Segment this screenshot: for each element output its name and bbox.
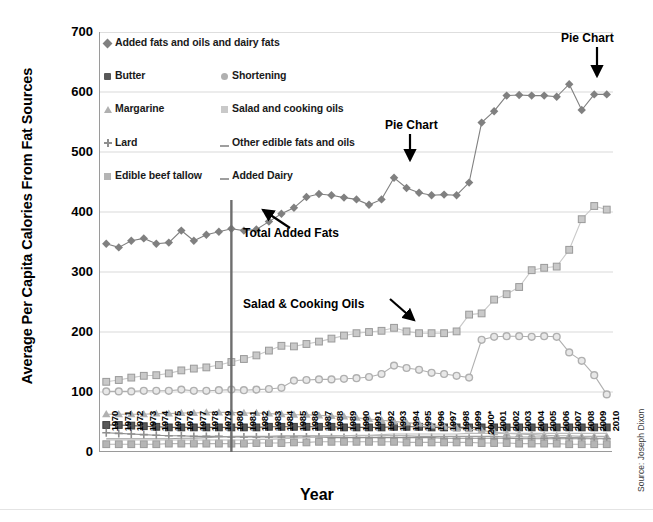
x-tick-1981: 1981 <box>247 411 258 455</box>
x-tick-1980: 1980 <box>234 411 245 455</box>
x-tick-1996: 1996 <box>435 411 446 455</box>
x-tick-1994: 1994 <box>410 411 421 455</box>
x-tick-1995: 1995 <box>422 411 433 455</box>
legend-item-added-fats-and-oils-and-dairy-fats[interactable]: Added fats and oils and dairy fats <box>101 33 280 51</box>
x-tick-2001: 2001 <box>497 411 508 455</box>
x-tick-1993: 1993 <box>397 411 408 455</box>
x-tick-1997: 1997 <box>447 411 458 455</box>
annotation-pie-chart-2: Pie Chart <box>561 31 614 45</box>
x-tick-1985: 1985 <box>297 411 308 455</box>
x-tick-1991: 1991 <box>372 411 383 455</box>
x-tick-2009: 2009 <box>597 411 608 455</box>
series-shortening <box>103 333 610 398</box>
x-tick-1972: 1972 <box>134 411 145 455</box>
y-tick-500: 500 <box>47 144 93 159</box>
x-tick-1970: 1970 <box>109 411 120 455</box>
y-axis-title: Average Per Capita Calories From Fat Sou… <box>19 16 35 436</box>
x-tick-1975: 1975 <box>172 411 183 455</box>
x-tick-2000: 2000* <box>485 411 496 455</box>
legend-label: Shortening <box>232 69 286 81</box>
y-tick-600: 600 <box>47 84 93 99</box>
x-tick-1986: 1986 <box>309 411 320 455</box>
x-tick-1973: 1973 <box>147 411 158 455</box>
x-tick-2002: 2002 <box>510 411 521 455</box>
x-tick-2006: 2006 <box>560 411 571 455</box>
x-tick-1974: 1974 <box>159 411 170 455</box>
annotation-total-added-fats: Total Added Fats <box>243 226 339 240</box>
legend-marker-diamond-icon <box>101 33 114 51</box>
page-bottom-edge <box>0 509 653 522</box>
x-tick-2010: 2010 <box>610 411 621 455</box>
x-tick-1979: 1979 <box>222 411 233 455</box>
y-tick-300: 300 <box>47 264 93 279</box>
chart-figure: Average Per Capita Calories From Fat Sou… <box>0 0 653 522</box>
legend-item-butter[interactable]: Butter <box>101 66 145 84</box>
legend-label: Added fats and oils and dairy fats <box>115 36 280 48</box>
x-tick-1983: 1983 <box>272 411 283 455</box>
chart-legend: Added fats and oils and dairy fatsButter… <box>101 33 431 185</box>
x-tick-1998: 1998 <box>460 411 471 455</box>
x-tick-1999: 1999 <box>472 411 483 455</box>
legend-label: Added Dairy <box>232 169 293 181</box>
x-tick-1992: 1992 <box>385 411 396 455</box>
x-tick-1988: 1988 <box>334 411 345 455</box>
legend-marker-dash-icon <box>218 166 231 184</box>
legend-label: Margarine <box>115 102 164 114</box>
legend-item-shortening[interactable]: Shortening <box>218 66 286 84</box>
legend-marker-square-dark-icon <box>101 66 114 84</box>
legend-label: Salad and cooking oils <box>232 102 344 114</box>
legend-label: Butter <box>115 69 145 81</box>
legend-item-salad-and-cooking-oils[interactable]: Salad and cooking oils <box>218 99 344 117</box>
legend-label: Lard <box>115 136 137 148</box>
legend-marker-circle-icon <box>218 66 231 84</box>
x-tick-1982: 1982 <box>259 411 270 455</box>
x-tick-2005: 2005 <box>547 411 558 455</box>
legend-item-margarine[interactable]: Margarine <box>101 99 164 117</box>
y-tick-700: 700 <box>47 24 93 39</box>
legend-marker-dash-icon <box>218 133 231 151</box>
x-tick-2004: 2004 <box>535 411 546 455</box>
legend-marker-plus-icon <box>101 133 114 151</box>
x-tick-2003: 2003 <box>522 411 533 455</box>
x-tick-2008: 2008 <box>585 411 596 455</box>
x-tick-1984: 1984 <box>284 411 295 455</box>
legend-label: Edible beef tallow <box>115 169 202 181</box>
x-tick-1976: 1976 <box>184 411 195 455</box>
annotation-salad-cooking-oils: Salad & Cooking Oils <box>243 297 364 311</box>
annotation-pie-chart-1: Pie Chart <box>385 118 438 132</box>
x-tick-1990: 1990 <box>360 411 371 455</box>
y-tick-100: 100 <box>47 384 93 399</box>
y-tick-0: 0 <box>47 444 93 459</box>
x-axis-title: Year <box>300 486 334 504</box>
x-tick-1989: 1989 <box>347 411 358 455</box>
legend-label: Other edible fats and oils <box>232 136 355 148</box>
x-tick-1978: 1978 <box>209 411 220 455</box>
source-note: Source: Joseph Dixon <box>636 382 646 492</box>
legend-item-edible-beef-tallow[interactable]: Edible beef tallow <box>101 166 202 184</box>
legend-marker-square-light-icon <box>101 166 114 184</box>
x-tick-1987: 1987 <box>322 411 333 455</box>
x-tick-2007: 2007 <box>572 411 583 455</box>
legend-item-lard[interactable]: Lard <box>101 133 137 151</box>
legend-item-other-edible-fats-and-oils[interactable]: Other edible fats and oils <box>218 133 355 151</box>
y-tick-400: 400 <box>47 204 93 219</box>
y-tick-200: 200 <box>47 324 93 339</box>
x-tick-1977: 1977 <box>197 411 208 455</box>
x-tick-1971: 1971 <box>122 411 133 455</box>
legend-item-added-dairy[interactable]: Added Dairy <box>218 166 293 184</box>
legend-marker-square-pale-icon <box>218 99 231 117</box>
legend-marker-star-icon <box>101 99 114 117</box>
